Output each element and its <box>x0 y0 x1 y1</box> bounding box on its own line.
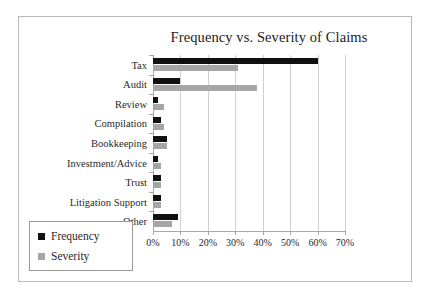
x-axis-tick <box>180 231 181 235</box>
bar-severity <box>153 221 172 227</box>
category-label-litigation-support: Litigation Support <box>70 196 147 207</box>
bar-frequency <box>153 195 161 201</box>
x-axis-tick <box>345 231 346 235</box>
bar-frequency <box>153 175 161 181</box>
bar-group <box>153 192 345 212</box>
category-row: Audit <box>153 75 345 95</box>
bar-severity <box>153 124 164 130</box>
bar-group <box>153 75 345 95</box>
bar-severity <box>153 182 161 188</box>
x-axis-tick-label: 30% <box>226 237 244 248</box>
gridline-70% <box>345 55 346 231</box>
legend-swatch-icon <box>38 253 45 260</box>
category-row: Tax <box>153 55 345 75</box>
category-label-investment-advice: Investment/Advice <box>67 157 147 168</box>
category-label-compilation: Compilation <box>95 118 148 129</box>
x-axis-tick-label: 40% <box>254 237 272 248</box>
category-row: Compilation <box>153 114 345 134</box>
x-axis-tick-label: 70% <box>336 237 354 248</box>
legend-item-frequency[interactable]: Frequency <box>38 226 132 246</box>
legend-swatch-icon <box>38 233 45 240</box>
x-axis-tick <box>235 231 236 235</box>
category-row: Trust <box>153 172 345 192</box>
x-axis-tick-label: 0% <box>146 237 159 248</box>
category-label-tax: Tax <box>131 59 147 70</box>
category-rows: TaxAuditReviewCompilationBookkeepingInve… <box>153 55 345 231</box>
bar-group <box>153 94 345 114</box>
x-axis-tick-label: 20% <box>199 237 217 248</box>
x-axis-tick-labels: 0%10%20%30%40%50%60%70% <box>153 237 345 253</box>
bar-severity <box>153 163 161 169</box>
bar-group <box>153 153 345 173</box>
bar-group <box>153 133 345 153</box>
chart-title: Frequency vs. Severity of Claims <box>139 29 399 46</box>
chart-legend: FrequencySeverity <box>29 221 133 271</box>
legend-item-severity[interactable]: Severity <box>38 246 132 266</box>
legend-label: Severity <box>51 250 89 262</box>
bar-group <box>153 211 345 231</box>
bar-frequency <box>153 78 180 84</box>
x-axis-tick <box>153 231 154 235</box>
chart-frame: Frequency vs. Severity of Claims TaxAudi… <box>18 16 412 282</box>
bar-group <box>153 114 345 134</box>
x-axis-tick <box>263 231 264 235</box>
category-label-review: Review <box>115 98 147 109</box>
bar-severity <box>153 104 164 110</box>
bar-severity <box>153 143 167 149</box>
x-axis-tick-label: 50% <box>281 237 299 248</box>
x-axis-line <box>153 231 345 232</box>
bar-frequency <box>153 214 178 220</box>
category-label-bookkeeping: Bookkeeping <box>91 137 147 148</box>
category-label-audit: Audit <box>123 79 147 90</box>
category-row: Bookkeeping <box>153 133 345 153</box>
bar-frequency <box>153 58 318 64</box>
bar-severity <box>153 85 257 91</box>
bar-frequency <box>153 97 158 103</box>
category-row: Investment/Advice <box>153 153 345 173</box>
bar-severity <box>153 202 161 208</box>
bar-severity <box>153 65 238 71</box>
x-axis-tick-label: 10% <box>171 237 189 248</box>
category-row: Review <box>153 94 345 114</box>
plot-area: TaxAuditReviewCompilationBookkeepingInve… <box>153 55 345 231</box>
x-axis-tick-label: 60% <box>308 237 326 248</box>
bar-frequency <box>153 117 161 123</box>
category-row: Other <box>153 211 345 231</box>
bar-frequency <box>153 136 167 142</box>
bar-group <box>153 172 345 192</box>
bar-frequency <box>153 156 158 162</box>
category-label-trust: Trust <box>125 177 147 188</box>
x-axis-tick <box>318 231 319 235</box>
bar-group <box>153 55 345 75</box>
legend-label: Frequency <box>51 230 100 242</box>
x-axis-tick <box>290 231 291 235</box>
category-row: Litigation Support <box>153 192 345 212</box>
x-axis-tick <box>208 231 209 235</box>
